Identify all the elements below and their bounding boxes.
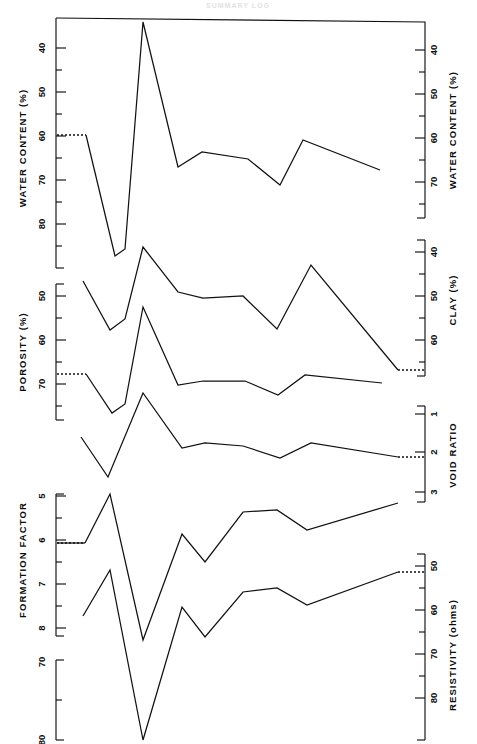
axis-formation-factor-extra: 70 80 — [36, 657, 64, 744]
tick-label: 40 — [36, 43, 47, 54]
curve-void-ratio — [81, 393, 425, 477]
tick-label: 60 — [428, 605, 439, 616]
tick-label: 60 — [428, 335, 439, 346]
axis-title: FORMATION FACTOR — [17, 502, 28, 618]
summary-log-figure: SUMMARY LOG 40 50 60 70 80 WATER CONTENT… — [0, 0, 477, 744]
tick-label: 50 — [36, 291, 47, 302]
axis-formation-factor: 5 6 7 8 FORMATION FACTOR — [17, 493, 66, 636]
tick-label: 5 — [36, 493, 47, 499]
tick-label: 50 — [428, 291, 439, 302]
tick-label: 70 — [36, 657, 47, 668]
axis-clay: 40 50 60 CLAY (%) — [415, 240, 458, 376]
tick-label: 40 — [428, 247, 439, 258]
plot-frame — [56, 18, 425, 38]
tick-label: 60 — [428, 133, 439, 144]
tick-label: 2 — [428, 449, 439, 454]
tick-label: 80 — [428, 693, 439, 704]
curve-formation-factor — [57, 494, 398, 640]
axis-title: POROSITY (%) — [17, 312, 28, 392]
tick-label: 8 — [36, 625, 47, 630]
tick-label: 50 — [36, 87, 47, 98]
axis-resistivity: 50 60 70 80 RESISTIVITY (ohms) — [415, 554, 458, 740]
figure-header-text: SUMMARY LOG — [206, 2, 270, 9]
tick-label: 7 — [36, 581, 47, 586]
tick-label: 70 — [428, 177, 439, 188]
tick-label: 80 — [36, 219, 47, 230]
tick-label: 70 — [428, 649, 439, 660]
curve-water-content — [57, 22, 380, 256]
tick-label: 3 — [428, 489, 439, 494]
tick-label: 40 — [428, 45, 439, 56]
tick-label: 1 — [428, 411, 439, 417]
axis-porosity: 50 60 70 POROSITY (%) — [17, 284, 66, 420]
tick-label: 70 — [36, 379, 47, 390]
tick-label: 50 — [428, 561, 439, 572]
chart-svg: SUMMARY LOG 40 50 60 70 80 WATER CONTENT… — [0, 0, 477, 744]
tick-label: 60 — [36, 335, 47, 346]
axis-void-ratio: 1 2 3 VOID RATIO — [415, 406, 458, 502]
axis-title: WATER CONTENT (%) — [17, 89, 28, 207]
tick-label: 60 — [36, 131, 47, 142]
tick-label: 6 — [36, 537, 47, 542]
axis-water-content-left: 40 50 60 70 80 WATER CONTENT (%) — [17, 30, 66, 268]
axis-title: WATER CONTENT (%) — [447, 71, 458, 189]
tick-label: 80 — [36, 735, 47, 744]
axis-title: CLAY (%) — [447, 274, 458, 325]
axis-title: RESISTIVITY (ohms) — [447, 599, 458, 711]
tick-label: 70 — [36, 175, 47, 186]
tick-label: 50 — [428, 89, 439, 100]
axis-title: VOID RATIO — [447, 422, 458, 488]
axis-water-content-right: 40 50 60 70 WATER CONTENT (%) — [415, 38, 458, 218]
curve-resistivity — [83, 570, 425, 740]
